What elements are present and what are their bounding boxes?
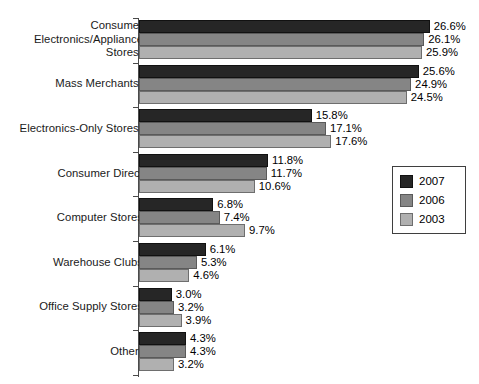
category-label-line: Mass Merchants2 xyxy=(0,77,143,90)
axis-tick xyxy=(133,241,138,242)
bar-value-label: 7.4% xyxy=(224,210,250,224)
bar-2006 xyxy=(139,211,220,224)
bar-2003 xyxy=(139,135,331,148)
bar-2006 xyxy=(139,78,411,91)
bar-value-label: 15.8% xyxy=(316,108,348,122)
category-label-line: Electronics-Only Stores3 xyxy=(0,122,143,135)
legend-label: 2006 xyxy=(419,194,445,207)
bar-group: Other44.3%4.3%3.2% xyxy=(0,332,479,371)
bar-value-label: 24.9% xyxy=(415,77,447,91)
bar-2003 xyxy=(139,269,189,282)
bar-value-label: 11.8% xyxy=(272,153,303,167)
bar-2003 xyxy=(139,91,407,104)
bar-value-label: 4.3% xyxy=(190,344,216,358)
bar-value-label: 17.6% xyxy=(335,134,367,148)
category-label: Office Supply Stores xyxy=(0,300,143,313)
axis-tick xyxy=(133,375,138,376)
bar-value-label: 25.9% xyxy=(426,45,458,59)
legend-item-2007: 2007 xyxy=(400,173,445,189)
bar-2007 xyxy=(139,288,172,301)
bar-2007 xyxy=(139,198,213,211)
category-label-line: Warehouse Clubs xyxy=(0,256,143,269)
bar-value-label: 6.8% xyxy=(217,197,243,211)
bar-2007 xyxy=(139,20,430,33)
legend-swatch-2003 xyxy=(400,213,413,226)
bar-chart: ConsumerElectronics/ApplianceStores126.6… xyxy=(0,0,479,384)
bar-2007 xyxy=(139,154,268,167)
bar-2006 xyxy=(139,33,424,46)
bar-group: Mass Merchants225.6%24.9%24.5% xyxy=(0,65,479,104)
axis-tick xyxy=(133,107,138,108)
bar-2007 xyxy=(139,332,186,345)
category-label: Consumer Direct xyxy=(0,167,143,180)
category-label: Mass Merchants2 xyxy=(0,77,143,90)
legend-swatch-2007 xyxy=(400,175,413,188)
legend-swatch-2006 xyxy=(400,194,413,207)
bar-value-label: 4.3% xyxy=(190,331,216,345)
bar-2006 xyxy=(139,301,174,314)
category-label-line: Office Supply Stores xyxy=(0,300,143,313)
bar-value-label: 9.7% xyxy=(249,223,275,237)
bar-group: ConsumerElectronics/ApplianceStores126.6… xyxy=(0,20,479,59)
bar-2003 xyxy=(139,46,422,59)
bar-2006 xyxy=(139,256,197,269)
bar-value-label: 26.6% xyxy=(434,19,466,33)
bar-2003 xyxy=(139,358,174,371)
axis-tick xyxy=(133,286,138,287)
bar-2007 xyxy=(139,65,419,78)
axis-tick xyxy=(133,63,138,64)
category-label: ConsumerElectronics/ApplianceStores1 xyxy=(0,19,143,59)
bar-value-label: 24.5% xyxy=(411,90,443,104)
bar-2007 xyxy=(139,109,312,122)
legend-label: 2007 xyxy=(419,175,445,188)
bar-2003 xyxy=(139,314,182,327)
legend-item-2003: 2003 xyxy=(400,211,445,227)
category-label: Computer Stores xyxy=(0,211,143,224)
bar-value-label: 3.0% xyxy=(176,287,202,301)
category-label-line: Computer Stores xyxy=(0,211,143,224)
bar-value-label: 10.6% xyxy=(259,179,291,193)
category-label-line: Consumer Direct xyxy=(0,167,143,180)
category-label: Electronics-Only Stores3 xyxy=(0,122,143,135)
bar-2003 xyxy=(139,180,255,193)
bar-2006 xyxy=(139,167,267,180)
category-label: Warehouse Clubs xyxy=(0,256,143,269)
category-label-line: Consumer xyxy=(0,19,143,32)
bar-2003 xyxy=(139,224,245,237)
category-label-line: Electronics/Appliance xyxy=(0,33,143,46)
legend-label: 2003 xyxy=(419,213,445,226)
category-label-line: Stores1 xyxy=(0,46,143,59)
bar-value-label: 3.2% xyxy=(178,357,204,371)
bar-value-label: 26.1% xyxy=(428,32,460,46)
axis-tick xyxy=(133,152,138,153)
bar-group: Warehouse Clubs6.1%5.3%4.6% xyxy=(0,243,479,282)
bar-value-label: 6.1% xyxy=(210,242,236,256)
bar-value-label: 25.6% xyxy=(423,64,455,78)
bar-value-label: 11.7% xyxy=(271,166,302,180)
bar-value-label: 4.6% xyxy=(193,268,219,282)
legend-item-2006: 2006 xyxy=(400,192,445,208)
bar-2007 xyxy=(139,243,206,256)
bar-value-label: 3.2% xyxy=(178,300,204,314)
axis-tick xyxy=(133,196,138,197)
bar-2006 xyxy=(139,122,326,135)
chart-legend: 200720062003 xyxy=(392,166,466,234)
bar-group: Office Supply Stores3.0%3.2%3.9% xyxy=(0,288,479,327)
bar-group: Electronics-Only Stores315.8%17.1%17.6% xyxy=(0,109,479,148)
category-label-line: Other4 xyxy=(0,345,143,358)
bar-value-label: 3.9% xyxy=(186,313,212,327)
bar-value-label: 17.1% xyxy=(330,121,362,135)
category-label: Other4 xyxy=(0,345,143,358)
axis-tick xyxy=(133,330,138,331)
bar-value-label: 5.3% xyxy=(201,255,227,269)
